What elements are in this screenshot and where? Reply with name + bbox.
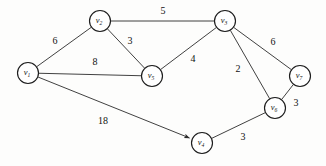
edge-weight-v4-v6: 3 (241, 131, 246, 142)
edge-weight-v2-v3: 5 (161, 5, 166, 16)
edge-weight-v7-v6: 3 (294, 97, 299, 108)
edge-weight-v1-v2: 6 (53, 35, 58, 46)
edge-weight-v1-v4: 18 (98, 115, 108, 126)
edges-layer (37, 21, 293, 138)
edge-weight-v3-v7: 6 (271, 36, 276, 47)
weight-labels-layer: 65384623183 (53, 5, 299, 142)
graph-edge-v5-v3 (161, 28, 217, 70)
edge-weight-v2-v5: 3 (128, 35, 133, 46)
graph-edge-v3-v7 (234, 27, 291, 69)
graph-node-v4: v4 (192, 133, 213, 154)
graph-node-v5: v5 (142, 66, 163, 87)
graph-node-v3: v3 (215, 11, 236, 32)
edge-weight-v3-v6: 2 (236, 63, 241, 74)
graph-node-v2: v2 (90, 11, 111, 32)
graph-edge-v1-v5 (39, 73, 141, 75)
graph-node-v1: v1 (18, 63, 39, 84)
edge-weight-v5-v3: 4 (191, 53, 196, 64)
graph-edge-v7-v6 (282, 85, 294, 100)
graph-edge-v1-v4 (38, 77, 189, 138)
edge-weight-v1-v5: 8 (93, 56, 98, 67)
graph-node-v6: v6 (265, 98, 286, 119)
graph-figure: v1v2v3v4v5v6v7 65384623183 (0, 0, 326, 166)
nodes-layer: v1v2v3v4v5v6v7 (18, 11, 311, 154)
graph-canvas: v1v2v3v4v5v6v7 65384623183 (0, 0, 326, 166)
graph-edge-v1-v2 (37, 27, 91, 66)
graph-edge-v4-v6 (212, 113, 265, 139)
graph-node-v7: v7 (290, 66, 311, 87)
graph-edge-v2-v5 (107, 29, 144, 68)
